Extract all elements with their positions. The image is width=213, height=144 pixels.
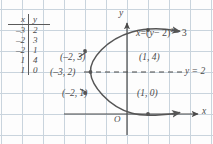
point-label-neg2-1: (–2, 1) [62,88,87,98]
point-marker-1-0 [146,112,150,116]
table-cell-x: –2 [8,45,29,55]
value-table: x y –3 2 –2 3 –2 1 1 4 [8,14,50,75]
point-label-1-4: (1, 4) [139,52,160,62]
table-header-x: x [8,14,29,25]
table-cell-y: 3 [29,35,51,45]
table-row: 1 0 [8,65,50,75]
y-axis-label: y [119,8,123,18]
point-label-neg2-3: (–2, 3) [60,52,85,62]
table-header-row: x y [8,14,50,25]
equation-label: x=(y− 2)2− 3 [136,26,187,38]
origin-label: O [114,114,121,124]
equation-term1: − 2 [154,27,167,38]
table-cell-x: 1 [8,55,29,65]
table-header-y: y [29,14,51,25]
point-marker-neg3-2 [89,70,93,74]
table-cell-y: 0 [29,65,51,75]
table-cell-x: –2 [8,35,29,45]
symmetry-line-label: y = 2 [185,66,205,76]
equation-term2: − 3 [174,27,187,38]
table-row: 1 4 [8,55,50,65]
x-axis-label: x [202,106,206,116]
table-row: –3 2 [8,25,50,36]
point-label-neg3-2: (–3, 2) [50,67,75,77]
point-label-1-0: (1, 0) [137,88,158,98]
table-cell-y: 4 [29,55,51,65]
figure-root: x y –3 2 –2 3 –2 1 1 4 [0,0,213,144]
table-cell-y: 1 [29,45,51,55]
table-row: –2 3 [8,35,50,45]
table-cell-x: –3 [8,25,29,36]
table-cell-y: 2 [29,25,51,36]
table-row: –2 1 [8,45,50,55]
table-cell-x: 1 [8,65,29,75]
